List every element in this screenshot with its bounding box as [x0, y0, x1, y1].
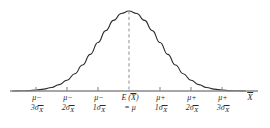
tick-label-mean: E (X) = μ	[121, 93, 138, 113]
tick-label-plus-2-sigma: μ+ 2σX	[186, 93, 199, 115]
tick-subscript: X	[163, 105, 168, 115]
tick-label-line2: 2σX	[62, 103, 75, 115]
normal-distribution-figure: μ− 3σX μ− 2σX μ− 1σX E (X) = μ μ+ 1σX μ+…	[0, 0, 270, 128]
tick-label-line1: μ+	[155, 93, 168, 103]
tick-label-minus-2-sigma: μ− 2σX	[62, 93, 75, 115]
tick-label-line1: μ+	[217, 93, 230, 103]
tick-label-minus-1-sigma: μ− 1σX	[93, 93, 106, 115]
tick-label-line1: μ−	[93, 93, 106, 103]
tick-subscript: X	[101, 105, 106, 115]
x-axis-title: X	[247, 92, 253, 102]
tick-label-line2: 3σX	[31, 103, 44, 115]
tick-label-line2: = μ	[121, 103, 138, 113]
tick-label-plus-1-sigma: μ+ 1σX	[155, 93, 168, 115]
tick-subscript: X	[194, 105, 199, 115]
tick-label-minus-3-sigma: μ− 3σX	[31, 93, 44, 115]
tick-label-line2: 1σX	[155, 103, 168, 115]
tick-label-line1: E (X)	[121, 93, 138, 103]
tick-label-line1: μ−	[31, 93, 44, 103]
tick-label-line2: 2σX	[186, 103, 199, 115]
tick-subscript: X	[70, 105, 75, 115]
tick-label-line2: 3σX	[217, 103, 230, 115]
tick-label-line1: μ+	[186, 93, 199, 103]
tick-subscript: X	[225, 105, 230, 115]
x-bar-glyph: X	[247, 92, 253, 102]
tick-subscript: X	[39, 105, 44, 115]
tick-label-plus-3-sigma: μ+ 3σX	[217, 93, 230, 115]
tick-label-line1: μ−	[62, 93, 75, 103]
x-bar-glyph: X	[131, 93, 136, 103]
tick-label-line2: 1σX	[93, 103, 106, 115]
